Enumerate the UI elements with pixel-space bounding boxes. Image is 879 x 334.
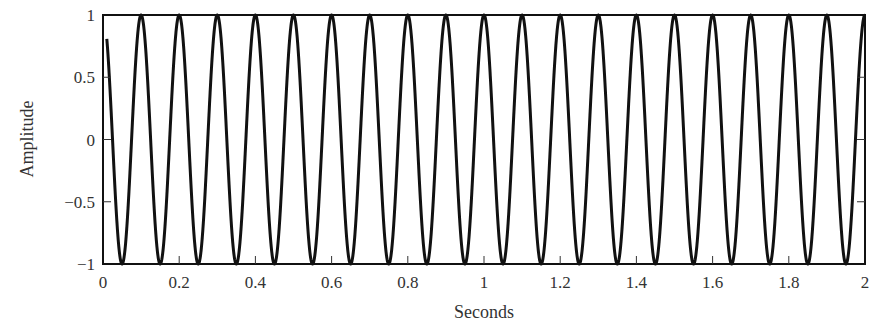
x-tick-label: 1.2 <box>550 273 571 292</box>
y-tick-label: −0.5 <box>64 193 95 212</box>
signal-line <box>107 15 865 264</box>
x-axis-label: Seconds <box>454 302 514 322</box>
x-tick-label: 0.2 <box>169 273 190 292</box>
x-tick-label: 1.4 <box>626 273 648 292</box>
y-tick-label: 1 <box>87 6 96 25</box>
x-axis-ticks <box>179 256 789 264</box>
x-tick-label: 1 <box>480 273 489 292</box>
x-tick-label: 2 <box>861 273 870 292</box>
x-tick-label: 1.6 <box>702 273 723 292</box>
x-axis-tick-labels: 00.20.40.60.811.21.41.61.82 <box>99 273 870 292</box>
y-tick-label: −1 <box>77 255 95 274</box>
y-axis-ticks <box>103 77 865 202</box>
y-axis-label: Amplitude <box>17 100 37 177</box>
y-axis-tick-labels: 10.50−0.5−1 <box>64 6 95 274</box>
y-tick-label: 0 <box>87 131 96 150</box>
x-tick-label: 0.8 <box>397 273 418 292</box>
x-tick-label: 0 <box>99 273 108 292</box>
x-tick-label: 0.6 <box>321 273 342 292</box>
plot-frame <box>103 15 865 264</box>
line-chart: 00.20.40.60.811.21.41.61.82 10.50−0.5−1 … <box>0 0 879 334</box>
x-tick-label: 1.8 <box>778 273 799 292</box>
x-tick-label: 0.4 <box>245 273 267 292</box>
y-tick-label: 0.5 <box>74 68 95 87</box>
plot-area <box>103 15 865 264</box>
